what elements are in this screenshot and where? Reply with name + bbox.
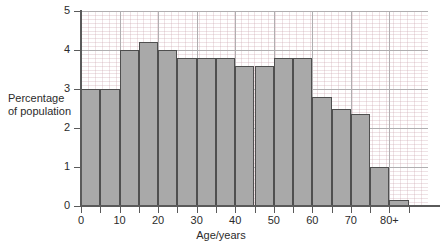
histogram-bar: [197, 58, 216, 206]
y-axis-title-line1: Percentage: [8, 92, 74, 105]
histogram-bar: [120, 50, 139, 206]
x-tick-mark: [177, 207, 178, 213]
x-tick-mark: [255, 207, 256, 213]
y-tick-label: 1: [50, 160, 70, 172]
x-tick-mark: [370, 207, 371, 213]
x-tick-label: 80+: [380, 214, 399, 226]
histogram-bar: [100, 89, 119, 206]
y-tick-mark: [74, 167, 80, 168]
y-tick-mark: [74, 128, 80, 129]
x-tick-mark: [158, 207, 159, 213]
y-tick-mark: [74, 89, 80, 90]
x-tick-mark: [81, 207, 82, 213]
x-tick-mark: [235, 207, 236, 213]
histogram-bar: [255, 66, 274, 206]
y-tick-mark: [74, 11, 80, 12]
x-tick-label: 10: [113, 214, 125, 226]
x-tick-label: 20: [152, 214, 164, 226]
plot-area: [81, 11, 428, 206]
y-tick-mark: [74, 206, 80, 207]
x-tick-mark: [120, 207, 121, 213]
y-tick-label: 0: [50, 199, 70, 211]
histogram-bar: [216, 58, 235, 206]
x-tick-mark: [312, 207, 313, 213]
histogram-bar: [274, 58, 293, 206]
y-tick-label: 4: [50, 43, 70, 55]
histogram-chart: 012345 01020304050607080+ Percentage of …: [0, 0, 442, 245]
y-axis-line: [80, 10, 82, 207]
histogram-bar: [351, 114, 370, 206]
x-tick-label: 60: [306, 214, 318, 226]
x-axis-title: Age/years: [0, 229, 442, 241]
histogram-bar: [312, 97, 331, 206]
histogram-bar: [177, 58, 196, 206]
x-tick-mark: [409, 207, 410, 213]
histogram-bar: [81, 89, 100, 206]
x-tick-mark: [139, 207, 140, 213]
histogram-bar: [370, 167, 389, 206]
y-tick-label: 5: [50, 4, 70, 16]
x-tick-label: 40: [229, 214, 241, 226]
histogram-bar: [139, 42, 158, 206]
histogram-bar: [332, 109, 351, 207]
histogram-bar: [235, 66, 254, 206]
x-tick-mark: [100, 207, 101, 213]
y-tick-label: 2: [50, 121, 70, 133]
x-tick-mark: [351, 207, 352, 213]
x-tick-label: 0: [78, 214, 84, 226]
x-tick-mark: [197, 207, 198, 213]
y-axis-title: Percentage of population: [8, 92, 74, 118]
x-axis-line: [80, 205, 440, 207]
y-tick-mark: [74, 50, 80, 51]
histogram-bar: [158, 50, 177, 206]
bar-series: [81, 11, 428, 206]
x-tick-label: 30: [191, 214, 203, 226]
x-tick-label: 70: [345, 214, 357, 226]
x-tick-label: 50: [268, 214, 280, 226]
x-tick-mark: [293, 207, 294, 213]
histogram-bar: [293, 58, 312, 206]
x-tick-mark: [216, 207, 217, 213]
x-tick-mark: [389, 207, 390, 213]
x-tick-mark: [332, 207, 333, 213]
y-axis-title-line2: of population: [8, 105, 74, 118]
x-tick-mark: [274, 207, 275, 213]
